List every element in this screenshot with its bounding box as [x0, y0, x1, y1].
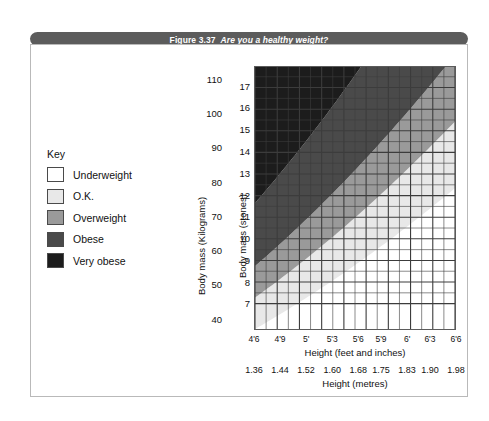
y-tick-kg-40: 40 — [196, 314, 222, 325]
legend-swatch-obese — [47, 232, 64, 247]
y-tick-kg-110: 110 — [196, 74, 222, 85]
legend-item-obese: Obese — [47, 231, 132, 248]
y-tick-stones-16: 16 — [236, 102, 250, 113]
figure-number: Figure 3.37 — [170, 35, 216, 45]
bmi-chart-svg — [255, 67, 455, 329]
figure-page: Figure 3.37 Are you a healthy weight? Ke… — [0, 0, 489, 421]
y-tick-stones-10: 10 — [236, 233, 250, 244]
y-tick-kg-100: 100 — [196, 108, 222, 119]
legend-item-underweight: Underweight — [47, 166, 132, 183]
x-axis-title-feet: Height (feet and inches) — [254, 347, 456, 358]
legend-label-obese: Obese — [73, 233, 104, 245]
legend-swatch-ok — [47, 189, 64, 204]
y-tick-stones-8: 8 — [236, 277, 250, 288]
y-tick-kg-80: 80 — [196, 177, 222, 188]
y-tick-stones-9: 9 — [236, 255, 250, 266]
y-tick-kg-60: 60 — [196, 245, 222, 256]
y-tick-kg-70: 70 — [196, 211, 222, 222]
legend-label-ok: O.K. — [73, 190, 94, 202]
legend-key: Key Underweight O.K. Overweight Obese Ve… — [47, 148, 132, 274]
y-tick-kg-90: 90 — [196, 142, 222, 153]
legend-label-overweight: Overweight — [73, 212, 126, 224]
bmi-chart-plot — [254, 66, 456, 330]
legend-swatch-very-obese — [47, 253, 64, 268]
x-axis-title-metres: Height (metres) — [254, 378, 456, 389]
y-tick-stones-7: 7 — [236, 298, 250, 309]
legend-label-very-obese: Very obese — [73, 255, 126, 267]
legend-label-underweight: Underweight — [73, 169, 132, 181]
figure-question: Are you a healthy weight? — [221, 35, 329, 45]
y-tick-stones-14: 14 — [236, 146, 250, 157]
x-tick-metres-8: 1.98 — [441, 365, 471, 375]
legend-swatch-overweight — [47, 210, 64, 225]
x-tick-feet-8: 6'6 — [441, 334, 471, 344]
y-tick-stones-15: 15 — [236, 124, 250, 135]
y-tick-stones-11: 11 — [236, 211, 250, 222]
legend-item-overweight: Overweight — [47, 209, 132, 226]
y-tick-kg-50: 50 — [196, 279, 222, 290]
legend-title: Key — [47, 148, 132, 160]
y-tick-stones-13: 13 — [236, 168, 250, 179]
y-tick-stones-12: 12 — [236, 190, 250, 201]
legend-item-very-obese: Very obese — [47, 252, 132, 269]
legend-swatch-underweight — [47, 167, 64, 182]
legend-item-ok: O.K. — [47, 188, 132, 205]
y-tick-stones-17: 17 — [236, 81, 250, 92]
